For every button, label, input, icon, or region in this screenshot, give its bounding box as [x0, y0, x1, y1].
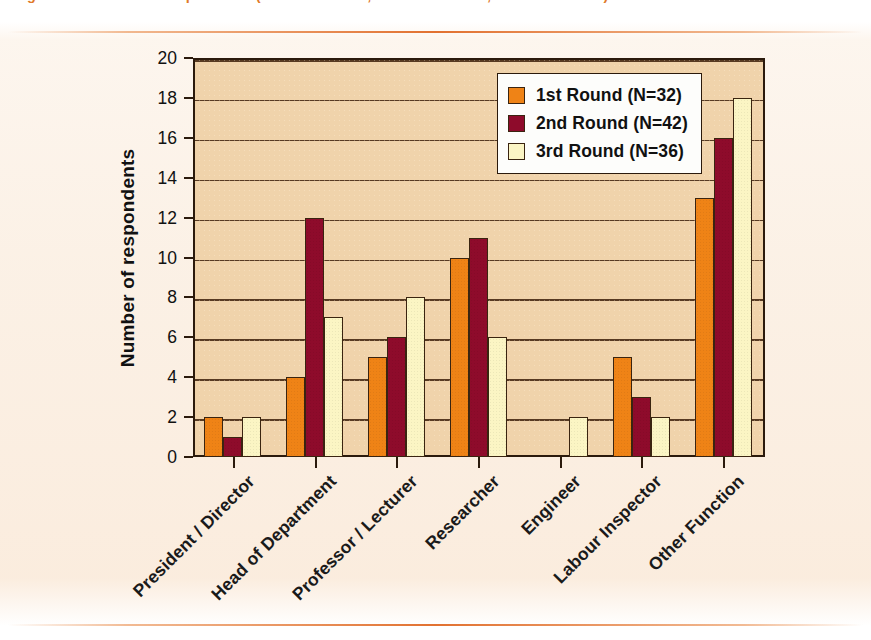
- y-tick-label-16: 16: [158, 127, 177, 148]
- legend-item-0: 1st Round (N=32): [508, 81, 688, 109]
- rule-bottom: [8, 624, 863, 626]
- legend-item-1: 2nd Round (N=42): [508, 109, 688, 137]
- y-tick-mark-12: [184, 217, 193, 219]
- y-tick-mark-20: [184, 57, 193, 59]
- figure-caption: Figure 4. Function of respondents (1st r…: [0, 0, 871, 10]
- legend-item-2: 3rd Round (N=36): [508, 137, 688, 165]
- legend-swatch-icon-1: [508, 115, 525, 132]
- gridline-12: [195, 220, 763, 222]
- y-tick-label-8: 8: [167, 287, 177, 308]
- y-tick-label-6: 6: [167, 327, 177, 348]
- y-tick-label-20: 20: [158, 48, 177, 69]
- y-tick-label-2: 2: [167, 407, 177, 428]
- legend-label-1: 2nd Round (N=42): [536, 113, 688, 134]
- y-tick-label-10: 10: [158, 247, 177, 268]
- legend-swatch-icon-2: [508, 143, 525, 160]
- y-tick-mark-6: [184, 336, 193, 338]
- gridline-8: [195, 299, 763, 301]
- gridline-6: [195, 339, 763, 341]
- y-tick-mark-16: [184, 137, 193, 139]
- y-tick-mark-2: [184, 416, 193, 418]
- legend-label-2: 3rd Round (N=36): [536, 141, 684, 162]
- figure-caption-text: Figure 4. Function of respondents (1st r…: [14, 0, 608, 3]
- y-tick-label-4: 4: [167, 367, 177, 388]
- y-tick-mark-8: [184, 296, 193, 298]
- gridline-4: [195, 379, 763, 381]
- x-axis-label-3: Researcher: [421, 471, 504, 554]
- gridline-20: [195, 60, 763, 62]
- gridline-2: [195, 419, 763, 421]
- legend-label-0: 1st Round (N=32): [536, 85, 682, 106]
- y-axis-ticks: 02468101214161820: [0, 58, 193, 457]
- x-axis-labels: President / DirectorHead of DepartmentPr…: [0, 457, 871, 622]
- rule-top: [8, 31, 863, 33]
- figure-root: Figure 4. Function of respondents (1st r…: [0, 0, 871, 640]
- y-tick-label-18: 18: [158, 87, 177, 108]
- x-axis-label-4: Engineer: [517, 471, 585, 539]
- chart-legend: 1st Round (N=32)2nd Round (N=42)3rd Roun…: [497, 73, 702, 174]
- y-tick-mark-10: [184, 257, 193, 259]
- y-tick-mark-18: [184, 97, 193, 99]
- legend-swatch-icon-0: [508, 87, 525, 104]
- y-tick-label-12: 12: [158, 207, 177, 228]
- gridline-10: [195, 260, 763, 262]
- gridline-14: [195, 180, 763, 182]
- y-tick-mark-4: [184, 376, 193, 378]
- y-tick-label-14: 14: [158, 167, 177, 188]
- y-tick-mark-14: [184, 177, 193, 179]
